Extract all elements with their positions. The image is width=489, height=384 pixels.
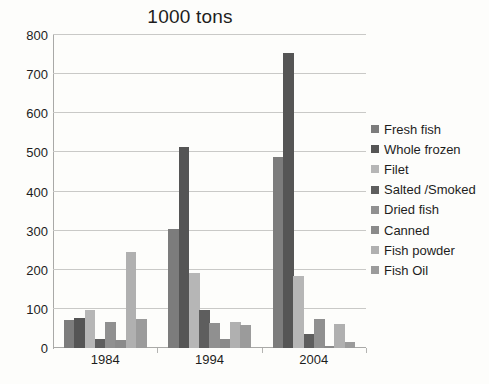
- bar-2004-fish-oil: [345, 342, 356, 348]
- legend-label-dried-fish: Dried fish: [384, 203, 439, 216]
- legend-item-fish-oil[interactable]: Fish Oil: [371, 260, 489, 280]
- x-tick-label-1984: 1984: [91, 352, 120, 367]
- y-tick-label-700: 700: [4, 67, 48, 82]
- legend-item-salted-smoked[interactable]: Salted /Smoked: [371, 180, 489, 200]
- y-tick-label-500: 500: [4, 145, 48, 160]
- legend-label-fish-powder: Fish powder: [384, 244, 455, 257]
- y-tick-label-200: 200: [4, 262, 48, 277]
- bar-2004-canned: [324, 346, 335, 348]
- bar-1994-dried-fish: [209, 323, 220, 348]
- bar-1984-filet: [85, 310, 96, 348]
- bar-1994-filet: [189, 273, 200, 348]
- legend-swatch-fish-powder: [371, 246, 379, 254]
- legend-label-filet: Filet: [384, 163, 409, 176]
- legend-item-dried-fish[interactable]: Dried fish: [371, 200, 489, 220]
- bar-1984-whole-frozen: [74, 318, 85, 348]
- bar-group-1984: [53, 35, 157, 348]
- plot-area: [53, 35, 366, 348]
- y-axis-tick-labels: 8007006005004003002001000: [0, 35, 48, 348]
- chart-title: 1000 tons: [0, 6, 380, 28]
- legend-swatch-salted-smoked: [371, 186, 379, 194]
- y-tick-label-800: 800: [4, 28, 48, 43]
- legend-item-fish-powder[interactable]: Fish powder: [371, 240, 489, 260]
- legend-label-whole-frozen: Whole frozen: [384, 143, 461, 156]
- bar-1994-whole-frozen: [179, 147, 190, 348]
- y-tick-label-0: 0: [4, 341, 48, 356]
- bar-group-2004: [262, 35, 366, 348]
- bars-layer: [53, 35, 366, 348]
- bar-1984-fish-powder: [126, 252, 137, 348]
- x-axis-separator-1: [157, 348, 158, 353]
- y-tick-label-300: 300: [4, 223, 48, 238]
- bar-1984-canned: [115, 340, 126, 348]
- bar-1994-salted-smoked: [199, 310, 210, 348]
- legend-label-fresh-fish: Fresh fish: [384, 123, 441, 136]
- bar-group-1994: [157, 35, 261, 348]
- legend-swatch-fish-oil: [371, 266, 379, 274]
- legend-label-canned: Canned: [384, 224, 430, 237]
- bar-1994-canned: [220, 339, 231, 348]
- x-tick-label-2004: 2004: [299, 352, 328, 367]
- x-tick-label-1994: 1994: [195, 352, 224, 367]
- bar-1984-fresh-fish: [64, 320, 75, 348]
- chart-legend: Fresh fishWhole frozenFiletSalted /Smoke…: [371, 119, 489, 281]
- legend-item-filet[interactable]: Filet: [371, 159, 489, 179]
- legend-swatch-dried-fish: [371, 206, 379, 214]
- bar-1994-fresh-fish: [168, 229, 179, 348]
- legend-label-fish-oil: Fish Oil: [384, 264, 428, 277]
- y-tick-label-400: 400: [4, 184, 48, 199]
- x-axis-separator-2: [262, 348, 263, 353]
- legend-label-salted-smoked: Salted /Smoked: [384, 183, 476, 196]
- y-tick-label-100: 100: [4, 301, 48, 316]
- legend-swatch-canned: [371, 226, 379, 234]
- legend-swatch-whole-frozen: [371, 145, 379, 153]
- bar-1984-fish-oil: [136, 319, 147, 348]
- y-tick-label-600: 600: [4, 106, 48, 121]
- bar-2004-dried-fish: [314, 319, 325, 348]
- bar-1984-dried-fish: [105, 322, 116, 348]
- bar-2004-salted-smoked: [304, 334, 315, 348]
- bar-2004-filet: [293, 276, 304, 348]
- x-axis-separator-end: [366, 348, 367, 353]
- x-axis-tick-labels: 198419942004: [53, 352, 366, 376]
- legend-item-canned[interactable]: Canned: [371, 220, 489, 240]
- bar-2004-fresh-fish: [273, 157, 284, 348]
- legend-item-whole-frozen[interactable]: Whole frozen: [371, 139, 489, 159]
- bar-chart: 1000 tons 8007006005004003002001000 1984…: [0, 0, 489, 384]
- legend-item-fresh-fish[interactable]: Fresh fish: [371, 119, 489, 139]
- bar-2004-whole-frozen: [283, 53, 294, 348]
- bar-1994-fish-oil: [240, 325, 251, 348]
- bar-1984-salted-smoked: [95, 339, 106, 348]
- bar-2004-fish-powder: [334, 324, 345, 348]
- bar-1994-fish-powder: [230, 322, 241, 348]
- legend-swatch-filet: [371, 165, 379, 173]
- legend-swatch-fresh-fish: [371, 125, 379, 133]
